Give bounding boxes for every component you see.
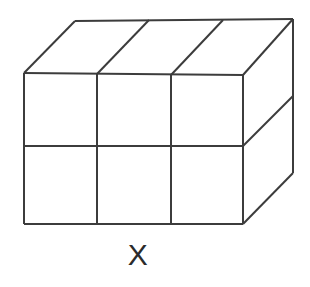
figure-container: X (0, 0, 310, 287)
front-face (24, 73, 243, 224)
figure-label: X (0, 238, 276, 272)
